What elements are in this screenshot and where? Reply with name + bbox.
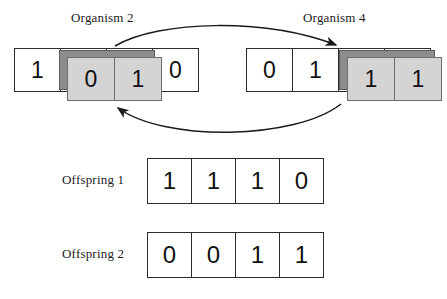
offspring-2-row: Offspring 2 0 0 1 1	[0, 232, 447, 278]
organism-4-cell-2: 1	[292, 48, 339, 92]
organism-2-label: Organism 2	[71, 10, 134, 25]
offspring-1-cell-1: 1	[147, 158, 192, 204]
offspring-2-cells: 0 0 1 1	[147, 232, 324, 278]
offspring-2-cell-2: 0	[191, 232, 236, 278]
offspring-1-cells: 1 1 1 0	[147, 158, 324, 204]
organism-2-chromosome: 1 0 1 0 0 1	[14, 48, 202, 92]
organism-4-cell-1: 0	[246, 48, 293, 92]
organism-4-swapped-segment: 1 1	[347, 57, 442, 101]
offspring-1-label: Offspring 1	[62, 172, 124, 187]
organism-4-label: Organism 4	[303, 10, 366, 25]
crossover-arrow-left-to-right	[115, 26, 336, 46]
offspring-1-cell-3: 1	[235, 158, 280, 204]
offspring-1-row: Offspring 1 1 1 1 0	[0, 158, 447, 204]
crossover-arrow-right-to-left	[118, 104, 341, 132]
organism-4-swap-cell-1: 1	[347, 57, 395, 101]
offspring-2-cell-1: 0	[147, 232, 192, 278]
organism-2-swapped-segment: 0 1	[67, 57, 162, 101]
offspring-1-cell-4: 0	[279, 158, 324, 204]
organism-2-swap-cell-1: 0	[67, 57, 115, 101]
organism-4-swap-cell-2: 1	[394, 57, 442, 101]
offspring-2-cell-3: 1	[235, 232, 280, 278]
organism-2-swap-cell-2: 1	[114, 57, 162, 101]
offspring-2-label: Offspring 2	[62, 246, 124, 261]
crossover-diagram: Organism 2 Organism 4 1 0 1 0 0 1 0 1 1 …	[0, 0, 447, 299]
organism-2-cell-1: 1	[14, 48, 61, 92]
organism-4-chromosome: 0 1 1 1 1 1	[246, 48, 434, 92]
offspring-2-cell-4: 1	[279, 232, 324, 278]
offspring-1-cell-2: 1	[191, 158, 236, 204]
